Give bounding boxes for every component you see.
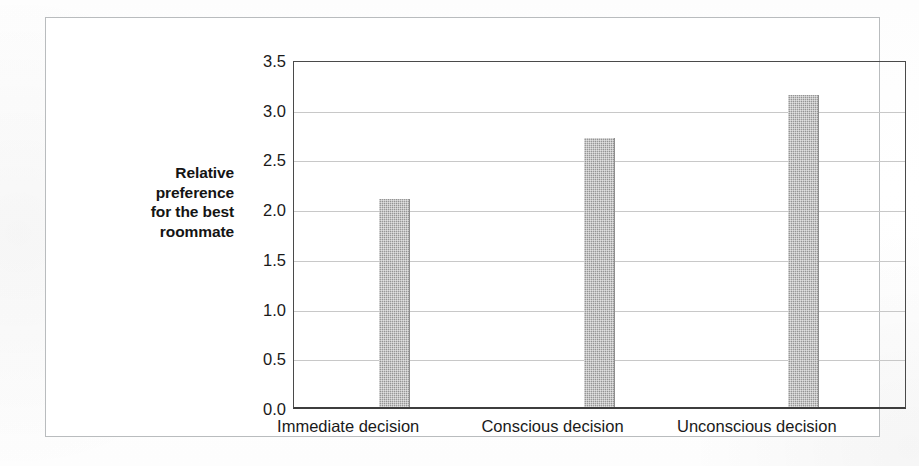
y-axis-tick-label: 0.0	[240, 400, 286, 419]
y-axis-tick-label: 3.5	[240, 52, 286, 71]
y-axis-tick-label: 1.0	[240, 300, 286, 319]
y-axis-title-line-3: for the best	[66, 202, 234, 222]
y-axis-tick-label: 1.5	[240, 250, 286, 269]
bar	[584, 138, 615, 407]
plot-area	[293, 61, 906, 409]
y-axis-title-line-4: roommate	[66, 222, 234, 242]
figure-frame: Relative preference for the best roommat…	[45, 17, 880, 437]
y-axis-tick-label: 2.0	[240, 201, 286, 220]
y-axis-tick-label: 3.0	[240, 101, 286, 120]
y-axis-tick-label: 2.5	[240, 151, 286, 170]
x-axis-tick-label: Immediate decision	[277, 417, 419, 436]
y-axis-title-line-1: Relative	[66, 163, 234, 183]
x-axis-tick-label: Unconscious decision	[677, 417, 837, 436]
y-axis-title: Relative preference for the best roommat…	[66, 163, 234, 241]
bar	[379, 199, 410, 407]
y-axis-tick-labels: 0.00.51.01.52.02.53.03.5	[236, 61, 286, 409]
bar	[788, 95, 819, 407]
x-axis-tick-label: Conscious decision	[481, 417, 623, 436]
y-axis-tick-label: 0.5	[240, 350, 286, 369]
y-axis-title-line-2: preference	[66, 183, 234, 203]
